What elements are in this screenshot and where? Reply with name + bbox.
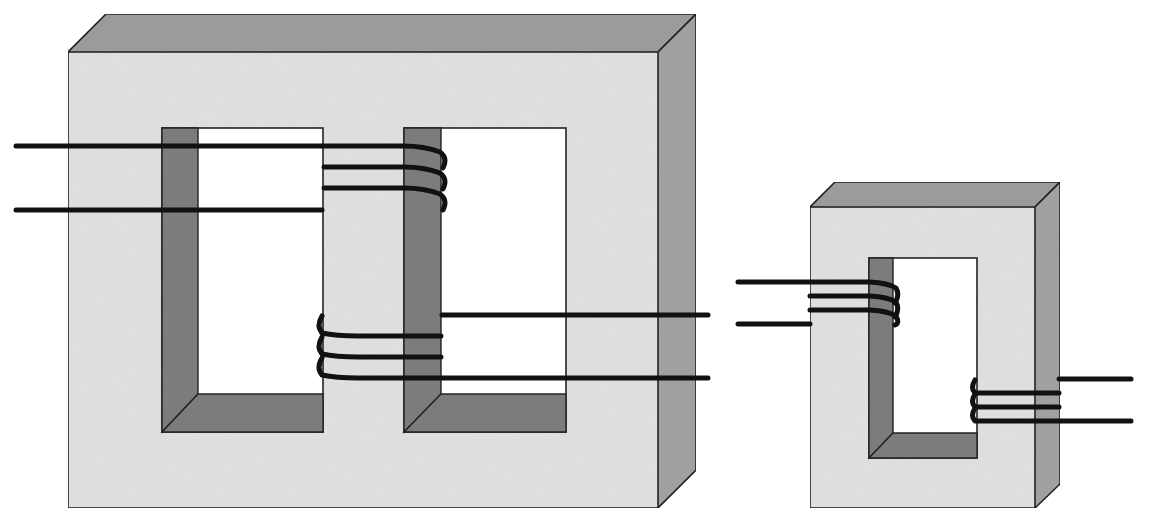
core-side-face [658,14,696,508]
small-core-window [869,258,977,458]
core-top-face [68,14,696,52]
small-core-top-face [810,182,1060,207]
core-type-core [738,182,1131,508]
small-core-side-face [1035,182,1060,508]
transformer-diagram [0,0,1149,524]
core-window-right [404,128,566,432]
core-front-face [68,52,658,508]
core-window-left [162,128,323,432]
shell-type-core [16,14,708,508]
